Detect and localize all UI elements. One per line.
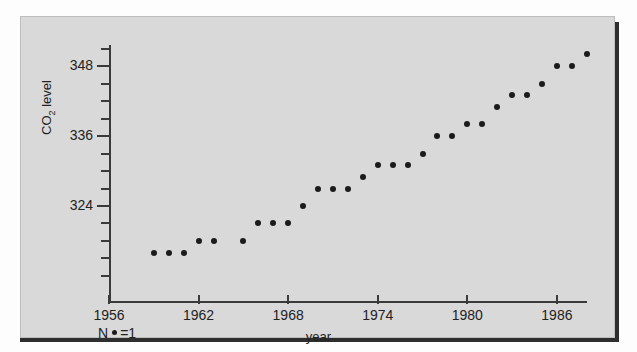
- data-point: [569, 63, 575, 69]
- data-point: [255, 220, 261, 226]
- data-point: [330, 186, 336, 192]
- data-point: [360, 174, 366, 180]
- data-point: [345, 186, 351, 192]
- data-point: [285, 220, 291, 226]
- data-point: [554, 63, 560, 69]
- data-point: [420, 151, 426, 157]
- data-point: [151, 250, 157, 256]
- data-point: [375, 162, 381, 168]
- data-point: [539, 81, 545, 87]
- data-point: [300, 203, 306, 209]
- data-point: [270, 220, 276, 226]
- data-point: [434, 133, 440, 139]
- data-point: [196, 238, 202, 244]
- data-point: [390, 162, 396, 168]
- data-points-layer: [21, 17, 616, 339]
- data-point: [479, 121, 485, 127]
- data-point: [464, 121, 470, 127]
- data-point: [584, 51, 590, 57]
- data-point: [524, 92, 530, 98]
- data-point: [166, 250, 172, 256]
- scatter-plot-panel: 348336324 195619621968197419801986 CO2 l…: [20, 16, 615, 338]
- data-point: [211, 238, 217, 244]
- data-point: [181, 250, 187, 256]
- figure-container: 348336324 195619621968197419801986 CO2 l…: [0, 0, 637, 352]
- data-point: [315, 186, 321, 192]
- data-point: [509, 92, 515, 98]
- data-point: [449, 133, 455, 139]
- data-point: [405, 162, 411, 168]
- data-point: [494, 104, 500, 110]
- data-point: [240, 238, 246, 244]
